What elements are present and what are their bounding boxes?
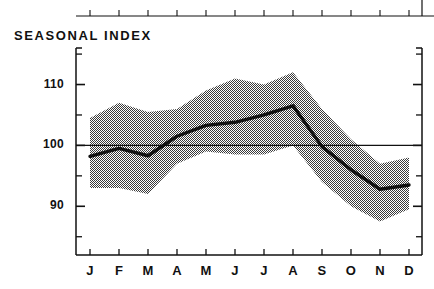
x-tick-october: O: [341, 263, 361, 278]
y-tick-90: 90: [24, 198, 64, 212]
x-tick-december: D: [399, 263, 419, 278]
seasonal-range-band: [90, 72, 409, 221]
x-tick-march: M: [138, 263, 158, 278]
chart-plot-area: [0, 0, 434, 289]
x-tick-july: J: [254, 263, 274, 278]
seasonal-index-figure: SEASONAL INDEX: [0, 0, 434, 289]
x-tick-january: J: [80, 263, 100, 278]
x-tick-june: J: [225, 263, 245, 278]
x-tick-may: M: [196, 263, 216, 278]
y-tick-100: 100: [24, 137, 64, 151]
y-tick-110: 110: [24, 77, 64, 91]
x-tick-september: S: [312, 263, 332, 278]
x-tick-february: F: [109, 263, 129, 278]
x-tick-april: A: [167, 263, 187, 278]
scan-artifact-top-axis: [76, 0, 434, 16]
x-tick-november: N: [370, 263, 390, 278]
x-tick-august: A: [283, 263, 303, 278]
